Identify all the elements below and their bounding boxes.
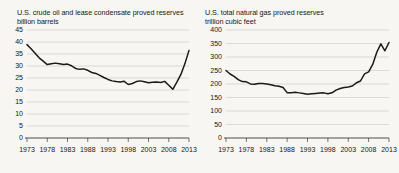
chart-panel-natural-gas: U.S. total natural gas proved reserves t… bbox=[200, 0, 399, 173]
y-axis-tick-label: 15 bbox=[15, 98, 23, 105]
y-axis-tick-label: 35 bbox=[15, 50, 23, 57]
y-axis-tick-label: 250 bbox=[210, 67, 222, 74]
y-axis-tick-label: 150 bbox=[210, 94, 222, 101]
chart-svg-natural-gas: 0501001502002503003504001973197819831988… bbox=[200, 26, 399, 173]
y-axis-tick-label: 50 bbox=[214, 121, 222, 128]
x-axis-tick-label: 1978 bbox=[239, 146, 255, 153]
y-axis-tick-label: 400 bbox=[210, 26, 222, 33]
x-axis-tick-label: 2013 bbox=[381, 146, 397, 153]
x-axis-tick-label: 2003 bbox=[340, 146, 356, 153]
x-axis-tick-label: 1983 bbox=[60, 146, 76, 153]
x-axis-tick-label: 2003 bbox=[141, 146, 157, 153]
data-series-line bbox=[226, 43, 389, 95]
x-axis-tick-label: 1988 bbox=[80, 146, 96, 153]
x-axis-tick-label: 1993 bbox=[300, 146, 316, 153]
figure-container: U.S. crude oil and lease condensate prov… bbox=[0, 0, 399, 173]
chart-svg-crude-oil: 0510152025303540451973197819831988199319… bbox=[0, 26, 199, 173]
x-axis-tick-label: 1983 bbox=[259, 146, 275, 153]
chart-title-natural-gas: U.S. total natural gas proved reserves bbox=[205, 8, 395, 17]
plot-area-natural-gas: 0501001502002503003504001973197819831988… bbox=[200, 26, 399, 173]
y-axis-tick-label: 30 bbox=[15, 62, 23, 69]
data-series-line bbox=[27, 45, 189, 90]
y-axis-tick-label: 25 bbox=[15, 74, 23, 81]
y-axis-tick-label: 300 bbox=[210, 53, 222, 60]
y-axis-tick-label: 20 bbox=[15, 86, 23, 93]
x-axis-tick-label: 2013 bbox=[181, 146, 197, 153]
x-axis-tick-label: 1973 bbox=[218, 146, 234, 153]
y-axis-tick-label: 10 bbox=[15, 110, 23, 117]
x-axis-tick-label: 1998 bbox=[320, 146, 336, 153]
y-axis-tick-label: 0 bbox=[218, 134, 222, 141]
y-axis-tick-label: 40 bbox=[15, 38, 23, 45]
chart-subtitle-crude-oil: billion barrels bbox=[17, 17, 195, 26]
x-axis-tick-label: 1973 bbox=[19, 146, 35, 153]
x-axis-tick-label: 1988 bbox=[279, 146, 295, 153]
chart-title-crude-oil: U.S. crude oil and lease condensate prov… bbox=[17, 8, 195, 17]
y-axis-tick-label: 5 bbox=[19, 122, 23, 129]
x-axis-tick-label: 1993 bbox=[100, 146, 116, 153]
x-axis-tick-label: 1978 bbox=[39, 146, 55, 153]
chart-panel-crude-oil: U.S. crude oil and lease condensate prov… bbox=[0, 0, 199, 173]
y-axis-tick-label: 100 bbox=[210, 107, 222, 114]
y-axis-tick-label: 0 bbox=[19, 134, 23, 141]
y-axis-tick-label: 350 bbox=[210, 40, 222, 47]
y-axis-tick-label: 200 bbox=[210, 80, 222, 87]
chart-subtitle-natural-gas: trillion cubic feet bbox=[205, 17, 395, 26]
y-axis-tick-label: 45 bbox=[15, 26, 23, 33]
x-axis-tick-label: 2008 bbox=[361, 146, 377, 153]
chart-titles-crude-oil: U.S. crude oil and lease condensate prov… bbox=[17, 8, 195, 26]
chart-titles-natural-gas: U.S. total natural gas proved reserves t… bbox=[205, 8, 395, 26]
x-axis-tick-label: 1998 bbox=[120, 146, 136, 153]
plot-area-crude-oil: 0510152025303540451973197819831988199319… bbox=[0, 26, 199, 173]
x-axis-tick-label: 2008 bbox=[161, 146, 177, 153]
